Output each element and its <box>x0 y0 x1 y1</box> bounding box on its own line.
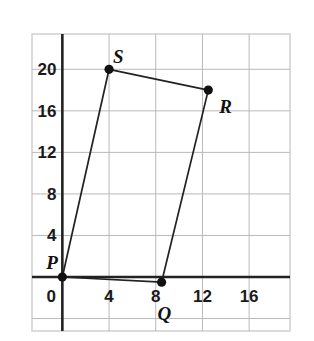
y-tick-label-8: 8 <box>24 185 56 202</box>
y-tick-label-20: 20 <box>24 61 56 78</box>
quadrilateral-outline <box>62 69 208 282</box>
vertex-label-p: P <box>46 253 58 272</box>
y-tick-label-16: 16 <box>24 102 56 119</box>
data-point-markers <box>58 65 213 287</box>
y-tick-label-12: 12 <box>24 144 56 161</box>
x-tick-label-4: 4 <box>104 288 113 305</box>
vertex-label-r: R <box>219 97 232 116</box>
x-tick-label-12: 12 <box>193 288 212 305</box>
x-tick-label-0: 0 <box>47 288 56 305</box>
y-tick-label-4: 4 <box>24 227 56 244</box>
vertex-label-s: S <box>113 47 124 66</box>
x-tick-label-16: 16 <box>240 288 259 305</box>
coordinate-plane-figure: 0481216 48121620 PQRS <box>0 0 314 341</box>
vertex-label-q: Q <box>158 304 172 323</box>
